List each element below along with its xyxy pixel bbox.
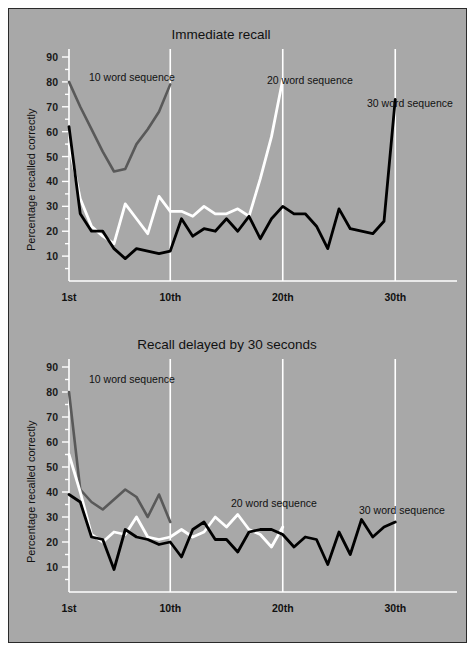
y-tick-label: 30 [46,200,58,212]
y-tick-label: 20 [46,536,58,548]
x-gridlines [170,359,395,592]
y-axis-label: Percentage recalled correctly [25,108,37,251]
thirty-word-sequence-label: 30 word sequence [359,504,445,516]
figure-root: Immediate recall Percentage recalled cor… [0,0,475,651]
ten-word-sequence-label: 10 word sequence [89,71,175,83]
x-axis-ticks: 1st10th20th30th [61,291,406,303]
x-axis-ticks: 1st10th20th30th [61,602,406,614]
y-axis-label: Percentage recalled correctly [25,420,37,563]
chart-title: Immediate recall [171,27,270,42]
y-tick-label: 40 [46,486,58,498]
chart-svg-immediate-recall: Immediate recall Percentage recalled cor… [9,13,465,323]
y-tick-label: 50 [46,151,58,163]
chart-panel-delayed-recall: Recall delayed by 30 seconds Percentage … [9,327,465,639]
y-tick-label: 80 [46,76,58,88]
data-series-group [69,392,395,570]
x-tick-label: 30th [384,291,406,303]
x-tick-label: 20th [272,291,294,303]
y-tick-label: 40 [46,175,58,187]
x-tick-label: 10th [159,291,181,303]
y-tick-label: 70 [46,411,58,423]
twenty-word-sequence-label: 20 word sequence [231,497,317,509]
y-tick-label: 60 [46,126,58,138]
figure-frame: Immediate recall Percentage recalled cor… [8,8,467,643]
y-tick-label: 20 [46,225,58,237]
x-tick-label: 10th [159,602,181,614]
y-tick-label: 90 [46,361,58,373]
y-tick-label: 70 [46,101,58,113]
y-tick-label: 60 [46,436,58,448]
y-tick-label: 30 [46,511,58,523]
y-tick-label: 10 [46,561,58,573]
y-tick-label: 10 [46,250,58,262]
y-tick-label: 50 [46,461,58,473]
y-axis-ticks: 102030405060708090 [46,51,69,269]
data-series-group [69,79,395,258]
y-axis-ticks: 102030405060708090 [46,361,69,580]
x-tick-label: 20th [272,602,294,614]
x-tick-label: 1st [61,291,77,303]
thirty-word-sequence-label: 30 word sequence [367,97,453,109]
chart-panel-immediate-recall: Immediate recall Percentage recalled cor… [9,13,465,323]
x-tick-label: 1st [61,602,77,614]
y-tick-label: 90 [46,51,58,63]
y-tick-label: 80 [46,386,58,398]
ten-word-sequence-label: 10 word sequence [89,373,175,385]
chart-title: Recall delayed by 30 seconds [137,337,317,352]
x-tick-label: 30th [384,602,406,614]
twenty-word-sequence-label: 20 word sequence [267,74,353,86]
series-line-10-word-sequence [69,82,170,172]
chart-svg-delayed-recall: Recall delayed by 30 seconds Percentage … [9,327,465,639]
